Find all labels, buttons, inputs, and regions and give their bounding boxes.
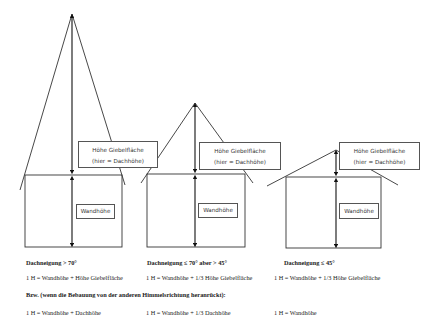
house-1-alt-formula: 1 H = Wandhöhe + Dachhöhe <box>26 309 101 316</box>
house-1-roof-left <box>20 14 72 190</box>
house-2-gable-label: Höhe Giebelfläche (hier = Dachhöhe) <box>199 142 281 170</box>
house-2-gable-label-line2: (hier = Dachhöhe) <box>200 157 280 168</box>
house-1-heading: Dachneigung > 70° <box>26 259 77 266</box>
house-3-gable-label-line2: (hier = Dachhöhe) <box>340 157 419 168</box>
house-1-gable-label-line1: Höhe Giebelfläche <box>79 144 157 156</box>
house-1-gable-label-line2: (hier = Dachhöhe) <box>79 156 157 167</box>
house-1-wall-label: Wandhöhe <box>76 204 115 219</box>
house-2-gable-label-line1: Höhe Giebelfläche <box>200 145 280 157</box>
house-1-formula: 1 H = Wandhöhe + Höhe Giebelfläche <box>26 274 123 281</box>
house-2-alt-formula: 1 H = Wandhöhe + 1/3 Dachhöhe <box>146 309 230 316</box>
house-2-heading: Dachneigung ≤ 70° aber > 45° <box>147 259 227 266</box>
house-3-wall-label: Wandhöhe <box>339 203 379 219</box>
house-2-wall-label: Wandhöhe <box>198 203 238 218</box>
house-3-gable-label: Höhe Giebelfläche (hier = Dachhöhe) <box>339 142 420 170</box>
house-2-formula: 1 H = Wandhöhe + 1/3 Höhe Giebelfläche <box>146 274 252 281</box>
house-3-gable-label-line1: Höhe Giebelfläche <box>340 145 419 157</box>
house-3-alt-formula: 1 H = Wandhöhe <box>274 309 317 316</box>
house-3-heading: Dachneigung ≤ 45° <box>284 259 335 266</box>
house-2-drawing <box>141 103 253 247</box>
house-3-formula: 1 H = Wandhöhe + 1/3 Höhe Giebelfläche <box>274 274 380 281</box>
house-1-gable-label: Höhe Giebelfläche (hier = Dachhöhe) <box>78 141 158 168</box>
alt-heading: Bzw. (wenn die Bebauung von der anderen … <box>26 291 226 298</box>
